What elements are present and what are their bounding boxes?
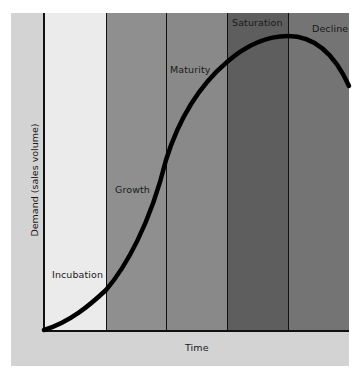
stage-label-decline: Decline bbox=[312, 23, 348, 34]
demand-curve bbox=[0, 0, 361, 376]
stage-label-maturity: Maturity bbox=[170, 64, 210, 75]
y-axis-label: Demand (sales volume) bbox=[29, 123, 40, 236]
stage-label-growth: Growth bbox=[115, 184, 150, 195]
x-axis-label: Time bbox=[185, 342, 209, 353]
stage-label-incubation: Incubation bbox=[52, 269, 103, 280]
stage-label-saturation: Saturation bbox=[232, 17, 283, 28]
